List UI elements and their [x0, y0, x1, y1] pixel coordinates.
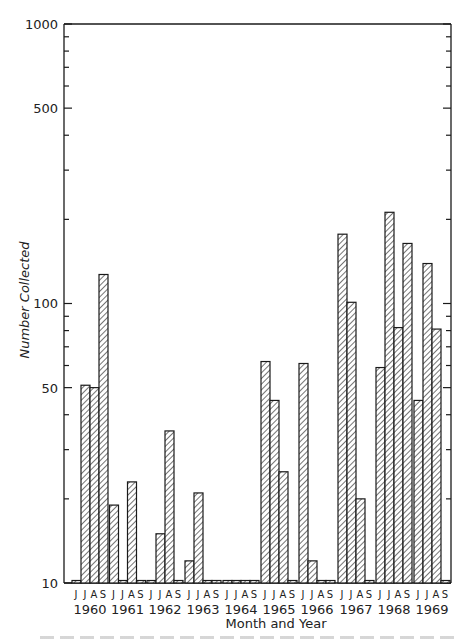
month-label: J: [263, 589, 268, 600]
tick-label-50: 50: [41, 381, 58, 396]
month-label: J: [83, 589, 88, 600]
year-label-1963: 1963: [186, 602, 219, 617]
bar-1967-A: [356, 499, 365, 583]
bar-1960-A: [90, 388, 99, 583]
month-label: A: [204, 589, 212, 600]
bar-1965-J: [270, 400, 279, 583]
bar-1962-J: [156, 534, 165, 583]
bar-1964-A: [241, 581, 250, 584]
bar-1965-S: [288, 581, 297, 584]
bar-1966-J: [308, 561, 317, 583]
bar-1962-J: [147, 581, 156, 584]
month-label: J: [340, 589, 345, 600]
year-label-1965: 1965: [262, 602, 295, 617]
bar-1966-J: [299, 364, 308, 583]
bar-1964-S: [250, 581, 259, 584]
bar-1969-J: [414, 400, 423, 583]
month-label: A: [395, 589, 403, 600]
month-label: A: [318, 589, 326, 600]
month-label: S: [327, 589, 334, 600]
bar-1969-S: [441, 581, 450, 584]
month-label: J: [301, 589, 306, 600]
year-label-1967: 1967: [339, 602, 372, 617]
month-label: J: [225, 589, 230, 600]
month-label: J: [74, 589, 79, 600]
year-label-1960: 1960: [73, 602, 106, 617]
month-label: J: [425, 589, 430, 600]
month-label: A: [433, 589, 441, 600]
bar-1963-A: [203, 581, 212, 584]
month-label: S: [251, 589, 258, 600]
bar-1967-J: [338, 234, 347, 583]
month-label: J: [272, 589, 277, 600]
bar-1964-J: [223, 581, 232, 584]
bar-1961-A: [128, 482, 137, 583]
year-label-1961: 1961: [111, 602, 144, 617]
bar-1964-J: [232, 581, 241, 584]
tick-label-100: 100: [33, 296, 58, 311]
month-label: J: [378, 589, 383, 600]
month-label: A: [91, 589, 99, 600]
y-axis-label: Number Collected: [17, 241, 32, 359]
bar-1962-S: [174, 581, 183, 584]
year-label-1964: 1964: [224, 602, 257, 617]
bar-1962-A: [165, 431, 174, 583]
bar-1966-S: [326, 581, 335, 584]
month-label: J: [416, 589, 421, 600]
month-label: A: [280, 589, 288, 600]
month-label: A: [357, 589, 365, 600]
month-label: J: [111, 589, 116, 600]
bar-1968-A: [394, 328, 403, 583]
tick-label-10: 10: [41, 576, 58, 591]
bar-1961-J: [110, 505, 119, 583]
month-label: S: [213, 589, 220, 600]
bar-1969-J: [423, 264, 432, 583]
bar-1965-J: [261, 362, 270, 583]
month-label: S: [100, 589, 107, 600]
bar-1968-J: [376, 368, 385, 583]
bar-1965-A: [279, 472, 288, 583]
bar-1968-J: [385, 212, 394, 583]
bar-1960-J: [81, 385, 90, 583]
month-label: J: [349, 589, 354, 600]
month-label: S: [175, 589, 182, 600]
bar-1968-S: [403, 243, 412, 583]
month-label: S: [289, 589, 296, 600]
year-label-1966: 1966: [300, 602, 333, 617]
bar-1967-S: [365, 581, 374, 584]
bar-1967-J: [347, 302, 356, 583]
month-labels: JJASJJASJJASJJASJJASJJASJJASJJASJJASJJAS: [74, 589, 450, 600]
bar-1963-J: [194, 493, 203, 583]
month-label: S: [442, 589, 449, 600]
month-label: J: [158, 589, 163, 600]
month-label: A: [242, 589, 250, 600]
month-label: J: [234, 589, 239, 600]
cropped-caption: [40, 632, 460, 642]
year-label-1969: 1969: [415, 602, 448, 617]
tick-label-1000: 1000: [25, 17, 58, 32]
month-label: A: [166, 589, 174, 600]
tick-label-500: 500: [33, 101, 58, 116]
bar-1963-S: [212, 581, 221, 584]
month-label: J: [387, 589, 392, 600]
month-label: J: [196, 589, 201, 600]
bar-1960-J: [72, 581, 81, 584]
bar-chart: 1000 500 100 50 10 Number Collected JJAS…: [0, 0, 468, 642]
year-label-1968: 1968: [377, 602, 410, 617]
bar-1961-J: [119, 581, 128, 584]
bar-1969-A: [432, 329, 441, 583]
month-label: S: [137, 589, 144, 600]
x-axis-label: Month and Year: [226, 616, 328, 631]
month-label: J: [149, 589, 154, 600]
bars: [72, 212, 450, 583]
year-label-1962: 1962: [148, 602, 181, 617]
bar-1966-A: [317, 581, 326, 584]
bar-1960-S: [99, 274, 108, 583]
bar-1961-S: [137, 581, 146, 584]
month-label: J: [310, 589, 315, 600]
month-label: A: [128, 589, 136, 600]
month-label: S: [366, 589, 373, 600]
month-label: S: [404, 589, 411, 600]
year-labels: 1960196119621963196419651966196719681969: [73, 602, 448, 617]
month-label: J: [120, 589, 125, 600]
